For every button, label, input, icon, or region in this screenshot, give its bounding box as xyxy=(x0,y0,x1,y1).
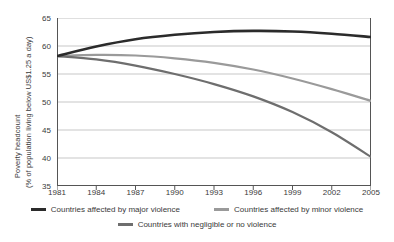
y-axis-tick-label: 65 xyxy=(29,14,51,23)
x-axis-tick-label: 1996 xyxy=(244,188,262,197)
chart-canvas xyxy=(57,18,371,191)
plot-area xyxy=(57,18,371,186)
y-axis-tick-label: 45 xyxy=(29,126,51,135)
legend-row-bottom: Countries with negligible or no violence xyxy=(0,217,394,232)
x-axis-tick-label: 2005 xyxy=(362,188,380,197)
data-series-line xyxy=(57,55,371,101)
legend-swatch-icon xyxy=(118,223,133,226)
legend-swatch-icon xyxy=(31,208,46,211)
y-axis-tick-label: 55 xyxy=(29,70,51,79)
y-axis-title-line-1: Poverty headcount xyxy=(13,115,22,178)
legend-item[interactable]: Countries affected by major violence xyxy=(31,205,180,214)
y-axis-tick-label: 50 xyxy=(29,98,51,107)
data-series-line xyxy=(57,31,371,56)
chart-figure: Poverty headcount (% of population livin… xyxy=(0,0,394,242)
legend-item-label: Countries with negligible or no violence xyxy=(138,220,277,229)
x-axis-tick-label: 1987 xyxy=(127,188,145,197)
x-axis-tick-label: 1990 xyxy=(166,188,184,197)
x-axis-tick-label: 1984 xyxy=(87,188,105,197)
x-axis-tick-label: 1993 xyxy=(205,188,223,197)
legend-item[interactable]: Countries affected by minor violence xyxy=(214,205,363,214)
y-axis-tick-labels: 35404550556065 xyxy=(29,18,51,186)
legend-item-label: Countries affected by minor violence xyxy=(234,205,363,214)
x-axis-tick-label: 1981 xyxy=(48,188,66,197)
legend-swatch-icon xyxy=(214,208,229,211)
legend-row-top: Countries affected by major violenceCoun… xyxy=(0,202,394,217)
y-axis-tick-label: 40 xyxy=(29,154,51,163)
x-axis-tick-label: 1999 xyxy=(284,188,302,197)
y-axis-tick-label: 60 xyxy=(29,42,51,51)
x-axis-tick-labels: 198119841987199019931996199920022005 xyxy=(57,188,371,202)
legend-item[interactable]: Countries with negligible or no violence xyxy=(118,220,277,229)
x-axis-tick-label: 2002 xyxy=(323,188,341,197)
data-series-line xyxy=(57,56,371,157)
chart-legend: Countries affected by major violenceCoun… xyxy=(0,202,394,232)
legend-item-label: Countries affected by major violence xyxy=(51,205,180,214)
